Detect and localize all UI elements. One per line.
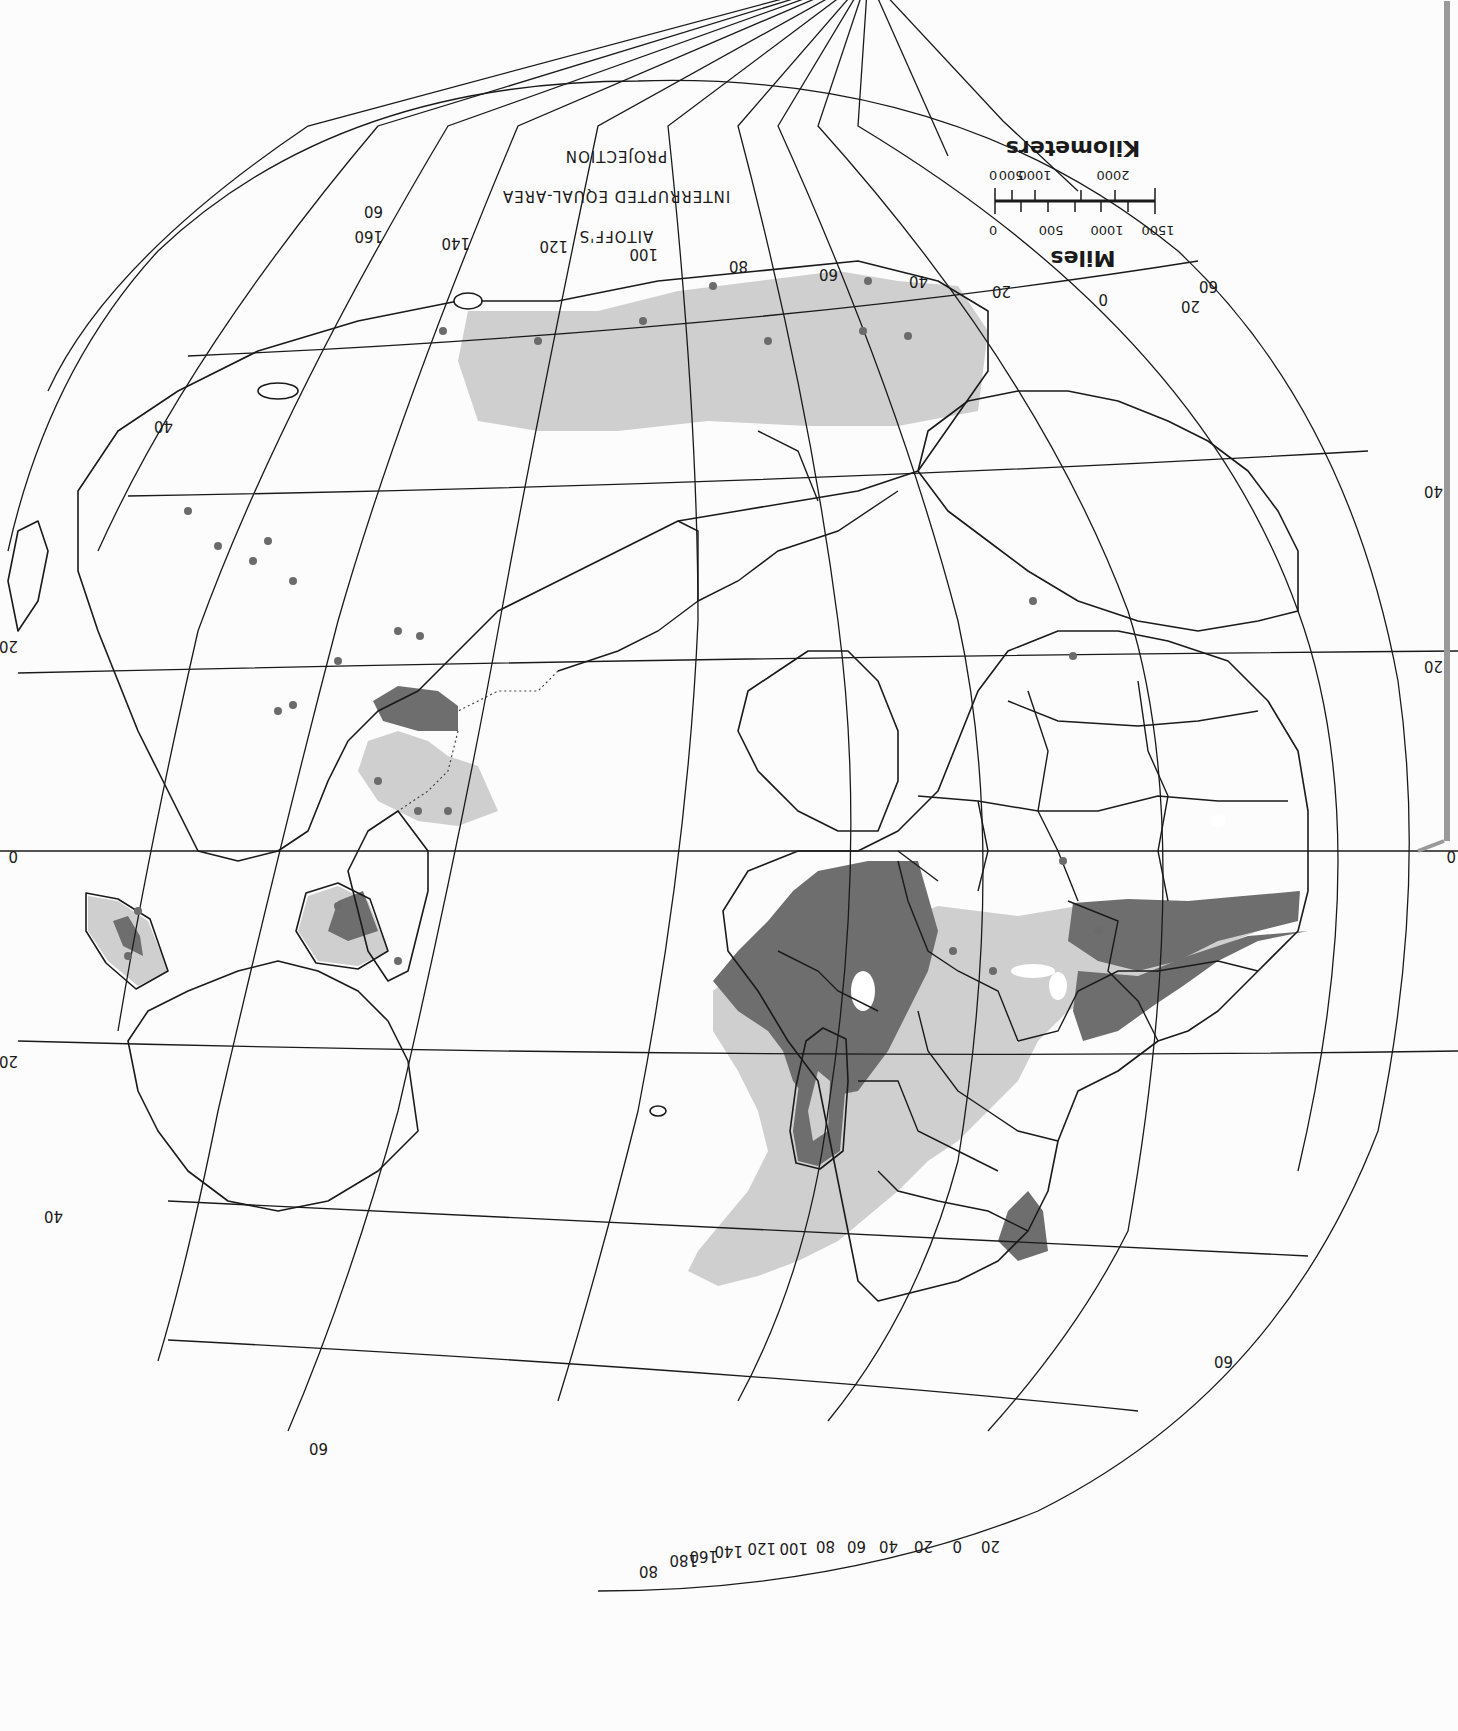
- location-dot: [274, 707, 282, 715]
- location-dot: [709, 282, 717, 290]
- meridian-label: 160: [354, 227, 383, 245]
- location-dot: [949, 947, 957, 955]
- scale-bar: Miles 1500 1000 500 0 2000: [989, 136, 1175, 271]
- miles-tick-label: 0: [989, 223, 997, 238]
- island: [650, 1106, 666, 1116]
- parallel-label: 60: [309, 1439, 328, 1457]
- meridian-label: 0: [1098, 290, 1108, 308]
- location-dot: [859, 327, 867, 335]
- parallel-label: 20: [1424, 657, 1443, 675]
- europe-outline: [918, 391, 1298, 631]
- location-dot: [416, 632, 424, 640]
- parallel-label: 60: [1199, 277, 1218, 295]
- parallel-label: 60: [364, 202, 383, 220]
- map-page: 20 0 20 40 60 80 100 120 140 160 60 60 2…: [0, 0, 1458, 1731]
- pole-meridian-label: 80: [639, 1562, 658, 1580]
- parallel-60s: [168, 1340, 1138, 1411]
- location-dot: [864, 277, 872, 285]
- landmasses: [8, 261, 1308, 1301]
- pacific-island-outline: [86, 893, 168, 989]
- island: [258, 383, 298, 399]
- pole-meridian-label: 80: [816, 1537, 835, 1555]
- miles-tick-label: 1000: [1090, 223, 1123, 238]
- map-canvas: 20 0 20 40 60 80 100 120 140 160 60 60 2…: [0, 0, 1458, 1731]
- meridian-label: 80: [729, 257, 748, 275]
- miles-label: Miles: [1051, 246, 1116, 271]
- projection-title-line3: PROJECTION: [565, 147, 667, 165]
- meridian-label: 40: [909, 272, 928, 290]
- projection-title-line2: INTERRUPTED EQUAL-AREA: [502, 187, 730, 205]
- location-dot: [289, 701, 297, 709]
- meridian-label: 100: [629, 245, 658, 263]
- meridian-label: 120: [539, 237, 568, 255]
- location-dot: [184, 507, 192, 515]
- kilometers-label: Kilometers: [1006, 136, 1140, 161]
- meridian-label: 20: [1181, 297, 1200, 315]
- pole-meridian-label: 0: [952, 1537, 962, 1555]
- projection-title-line1: AITOFF'S: [579, 227, 654, 245]
- parallel-label: 0: [8, 847, 18, 865]
- location-dot: [334, 657, 342, 665]
- location-dot: [394, 627, 402, 635]
- location-dot: [1029, 597, 1037, 605]
- meridian-label: 140: [441, 234, 470, 252]
- island: [454, 293, 482, 309]
- location-dot: [264, 537, 272, 545]
- pole-meridian-label: 40: [879, 1537, 898, 1555]
- pole-meridian-label: 180: [669, 1551, 698, 1569]
- location-dot: [534, 337, 542, 345]
- parallel-label: 40: [44, 1207, 63, 1225]
- parallel-label: 40: [154, 417, 173, 435]
- miles-tick-label: 500: [1039, 223, 1064, 238]
- location-dot: [134, 907, 142, 915]
- pole-meridian-label: 20: [914, 1537, 933, 1555]
- location-dot: [1069, 652, 1077, 660]
- japan-outline: [8, 521, 48, 631]
- pole-meridian-label: 100: [779, 1539, 808, 1557]
- location-dot: [289, 577, 297, 585]
- location-dot: [904, 332, 912, 340]
- meridian-label: 20: [992, 282, 1011, 300]
- location-dot: [439, 327, 447, 335]
- parallel-label: 20: [0, 637, 18, 655]
- arabia-outline: [738, 651, 898, 831]
- km-tick-label: 500: [999, 168, 1024, 183]
- location-dot: [249, 557, 257, 565]
- location-dot: [374, 777, 382, 785]
- meridian-label: 60: [819, 265, 838, 283]
- location-dot: [214, 542, 222, 550]
- location-dot: [764, 337, 772, 345]
- binding-strip: [1444, 1, 1450, 841]
- australia-outline: [128, 961, 418, 1211]
- km-tick-label: 0: [989, 168, 997, 183]
- parallel-label: 60: [1214, 1352, 1233, 1370]
- location-dot: [1059, 857, 1067, 865]
- title-block: AITOFF'S INTERRUPTED EQUAL-AREA PROJECTI…: [502, 147, 730, 245]
- pole-meridian-label: 60: [847, 1537, 866, 1555]
- location-dot: [334, 902, 342, 910]
- miles-tick-label: 1500: [1141, 223, 1174, 238]
- location-dot: [1094, 927, 1102, 935]
- pole-meridian-label: 20: [981, 1537, 1000, 1555]
- location-dot: [639, 317, 647, 325]
- parallel-label: 0: [1446, 847, 1456, 865]
- location-dot: [124, 952, 132, 960]
- page-binding-edge: [1418, 1, 1450, 851]
- location-dot: [394, 957, 402, 965]
- km-tick-label: 2000: [1096, 168, 1129, 183]
- location-dot: [414, 807, 422, 815]
- parallel-label: 20: [0, 1052, 18, 1070]
- pole-meridian-label: 120: [747, 1539, 776, 1557]
- location-dot: [989, 967, 997, 975]
- location-dot: [444, 807, 452, 815]
- parallel-label: 40: [1424, 482, 1443, 500]
